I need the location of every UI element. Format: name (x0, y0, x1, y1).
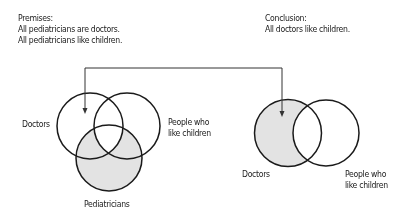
right-people-label-line-1: People who (345, 169, 388, 180)
connector-arrow (83, 68, 285, 117)
right-people-label-line-2: like children (345, 180, 388, 191)
right-people-label: People who like children (345, 169, 388, 191)
left-people-label-line-2: like children (168, 128, 211, 139)
right-doctors-label: Doctors (242, 169, 270, 180)
left-people-label-line-1: People who (168, 117, 211, 128)
arrowhead-left-icon (83, 108, 88, 114)
left-pediatricians-label: Pediatricians (84, 199, 130, 210)
left-doctors-label: Doctors (22, 119, 50, 130)
left-people-label: People who like children (168, 117, 211, 139)
